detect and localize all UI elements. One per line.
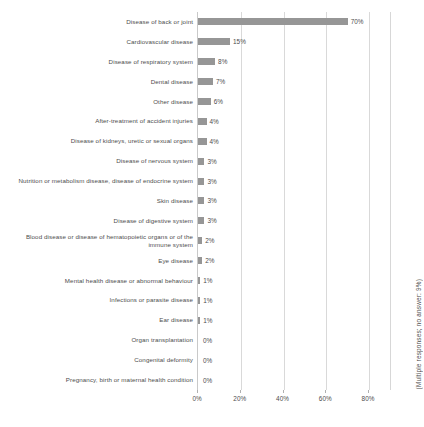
bar [198,197,204,204]
bar-container: 15% [198,32,246,52]
x-tick-mark [240,390,241,393]
bar-chart: Disease of back or joint70%Cardiovascula… [0,0,424,427]
category-label: Congenital deformity [7,356,193,364]
bar [198,317,200,324]
bar [198,58,215,65]
category-label: Other disease [7,98,193,106]
bar [198,178,204,185]
bar-row: Other disease6% [0,92,424,112]
bar-container: 3% [198,191,217,211]
x-axis: 0%20%40%60%80% [197,390,391,408]
bar-value-label: 3% [207,217,216,224]
bar-row: Disease of digestive system3% [0,211,424,231]
bar-container: 70% [198,12,363,32]
x-tick-mark [197,390,198,393]
bar-container: 0% [198,370,212,390]
x-tick-mark [283,390,284,393]
bar-value-label: 2% [205,257,214,264]
category-label: Nutrition or metabolism disease, disease… [7,177,193,185]
bar-container: 2% [198,231,215,251]
bar-rows: Disease of back or joint70%Cardiovascula… [0,12,424,390]
bar-row: Disease of back or joint70% [0,12,424,32]
bar-row: Organ transplantation0% [0,330,424,350]
bar-container: 3% [198,151,217,171]
bar-value-label: 1% [203,277,212,284]
bar-value-label: 1% [203,297,212,304]
bar-container: 4% [198,131,219,151]
bar-row: Cardiovascular disease15% [0,32,424,52]
bar [198,18,348,25]
bar-value-label: 0% [203,337,212,344]
category-label: Infections or parasite disease [7,296,193,304]
bar [198,118,207,125]
bar-container: 8% [198,52,227,72]
category-label: Eye disease [7,257,193,265]
bar-value-label: 3% [207,178,216,185]
chart-footnote: (Multiple responses; no answer: 9%) [415,279,422,389]
category-label: Disease of back or joint [7,18,193,26]
x-tick-label: 20% [233,395,246,402]
category-label: After-treatment of accident injuries [7,117,193,125]
bar-row: Eye disease2% [0,251,424,271]
bar-container: 0% [198,330,212,350]
x-tick-mark [325,390,326,393]
bar-container: 2% [198,251,215,271]
bar [198,158,204,165]
bar-value-label: 6% [214,98,223,105]
category-label: Blood disease or disease of hematopoieti… [7,233,193,249]
bar-value-label: 7% [216,78,225,85]
bar [198,217,204,224]
category-label: Pregnancy, birth or maternal health cond… [7,376,193,384]
category-label: Ear disease [7,316,193,324]
bar-value-label: 8% [218,58,227,65]
bar-container: 0% [198,350,212,370]
bar-value-label: 70% [351,18,364,25]
bar-row: Skin disease3% [0,191,424,211]
bar [198,138,207,145]
bar-container: 1% [198,310,212,330]
bar-row: After-treatment of accident injuries4% [0,111,424,131]
bar-row: Mental health disease or abnormal behavi… [0,271,424,291]
category-label: Cardiovascular disease [7,38,193,46]
bar-row: Ear disease1% [0,310,424,330]
bar-value-label: 0% [203,377,212,384]
bar-container: 4% [198,111,219,131]
category-label: Disease of kidneys, uretic or sexual org… [7,137,193,145]
bar [198,78,213,85]
bar-row: Nutrition or metabolism disease, disease… [0,171,424,191]
category-label: Mental health disease or abnormal behavi… [7,277,193,285]
bar-container: 3% [198,211,217,231]
bar-value-label: 15% [233,38,246,45]
x-tick-label: 0% [192,395,201,402]
bar-row: Disease of kidneys, uretic or sexual org… [0,131,424,151]
category-label: Skin disease [7,197,193,205]
bar-container: 6% [198,92,223,112]
category-label: Dental disease [7,78,193,86]
category-label: Organ transplantation [7,336,193,344]
bar-value-label: 4% [210,118,219,125]
bar [198,38,230,45]
bar-row: Congenital deformity0% [0,350,424,370]
x-tick-label: 60% [319,395,332,402]
bar-row: Blood disease or disease of hematopoieti… [0,231,424,251]
bar-row: Disease of nervous system3% [0,151,424,171]
bar-container: 1% [198,271,212,291]
category-label: Disease of respiratory system [7,58,193,66]
bar-value-label: 3% [207,158,216,165]
bar-value-label: 0% [203,357,212,364]
bar [198,257,202,264]
bar-row: Dental disease7% [0,72,424,92]
bar-container: 1% [198,291,212,311]
category-label: Disease of nervous system [7,157,193,165]
bar-value-label: 1% [203,317,212,324]
bar-value-label: 2% [205,237,214,244]
x-tick-label: 40% [276,395,289,402]
bar [198,297,200,304]
bar-row: Infections or parasite disease1% [0,291,424,311]
bar-row: Disease of respiratory system8% [0,52,424,72]
bar-value-label: 4% [210,138,219,145]
bar-value-label: 3% [207,197,216,204]
x-tick-label: 80% [362,395,375,402]
category-label: Disease of digestive system [7,217,193,225]
bar-container: 3% [198,171,217,191]
